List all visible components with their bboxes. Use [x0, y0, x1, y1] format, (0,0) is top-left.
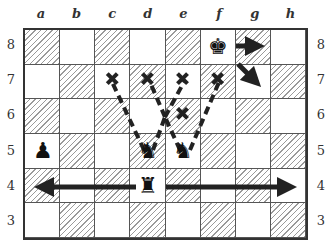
x-marker-icon: [142, 74, 152, 84]
x-marker-icon: [178, 74, 188, 84]
x-marker-icon: [213, 74, 223, 84]
black-pawn-icon[interactable]: ♟: [25, 140, 60, 162]
black-rook-icon[interactable]: ♜: [130, 175, 165, 197]
black-knight-icon[interactable]: ♞: [130, 140, 165, 162]
black-knight-icon[interactable]: ♞: [166, 140, 201, 162]
move-arrows-overlay: [0, 0, 334, 250]
x-marker-icon: [178, 108, 188, 118]
king-arrow-diag: [238, 64, 254, 80]
x-marker-icon: [107, 74, 117, 84]
black-king-icon[interactable]: ♚: [201, 36, 236, 58]
